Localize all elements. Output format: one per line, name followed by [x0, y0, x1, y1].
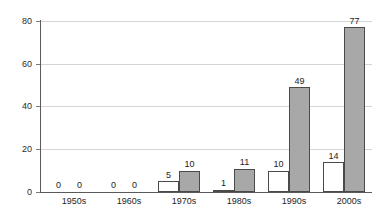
bar-label-1980s-series2: 11	[234, 157, 255, 167]
bar-label-1980s-series1: 1	[213, 178, 234, 188]
x-axis-label-1960s: 1960s	[104, 196, 154, 207]
bar-1990s-series2	[289, 87, 310, 192]
bar-label-1950s-series1: 0	[48, 180, 69, 190]
y-axis-label-0: 0	[6, 188, 32, 197]
x-axis-label-1950s: 1950s	[49, 196, 99, 207]
bar-label-1960s-series1: 0	[103, 180, 124, 190]
y-tick-20	[36, 149, 40, 150]
x-axis-line	[40, 192, 372, 193]
y-tick-60	[36, 64, 40, 65]
y-tick-40	[36, 106, 40, 107]
bar-label-2000s-series1: 14	[323, 151, 344, 161]
bar-2000s-series2	[344, 27, 365, 192]
gridline-20	[40, 149, 372, 150]
y-tick-0	[36, 192, 40, 193]
y-axis-label-80: 80	[6, 17, 32, 26]
bar-chart: 0 0 0 0 5 10 1 11 10 49 14 77 80 60 4	[0, 0, 387, 223]
y-axis-line	[40, 20, 41, 193]
gridline-40	[40, 106, 372, 107]
x-axis-label-1990s: 1990s	[269, 196, 319, 207]
plot-area: 0 0 0 0 5 10 1 11 10 49 14 77	[40, 21, 372, 192]
bar-1970s-series2	[179, 171, 200, 192]
bar-1990s-series1	[268, 171, 289, 192]
x-axis-label-2000s: 2000s	[324, 196, 374, 207]
y-axis-label-20: 20	[6, 145, 32, 154]
x-axis-label-1970s: 1970s	[159, 196, 209, 207]
y-axis-label-60: 60	[6, 60, 32, 69]
bar-label-1990s-series1: 10	[268, 159, 289, 169]
gridline-80	[40, 21, 372, 22]
x-axis-label-1980s: 1980s	[214, 196, 264, 207]
bar-1980s-series2	[234, 169, 255, 193]
bar-1970s-series1	[158, 181, 179, 192]
bar-label-1970s-series1: 5	[158, 170, 179, 180]
gridline-60	[40, 64, 372, 65]
bar-label-1970s-series2: 10	[179, 159, 200, 169]
bar-label-2000s-series2: 77	[344, 16, 365, 26]
y-axis-label-40: 40	[6, 102, 32, 111]
bar-label-1990s-series2: 49	[289, 76, 310, 86]
bar-label-1960s-series2: 0	[124, 180, 145, 190]
bar-2000s-series1	[323, 162, 344, 192]
bar-label-1950s-series2: 0	[69, 180, 90, 190]
y-tick-80	[36, 21, 40, 22]
